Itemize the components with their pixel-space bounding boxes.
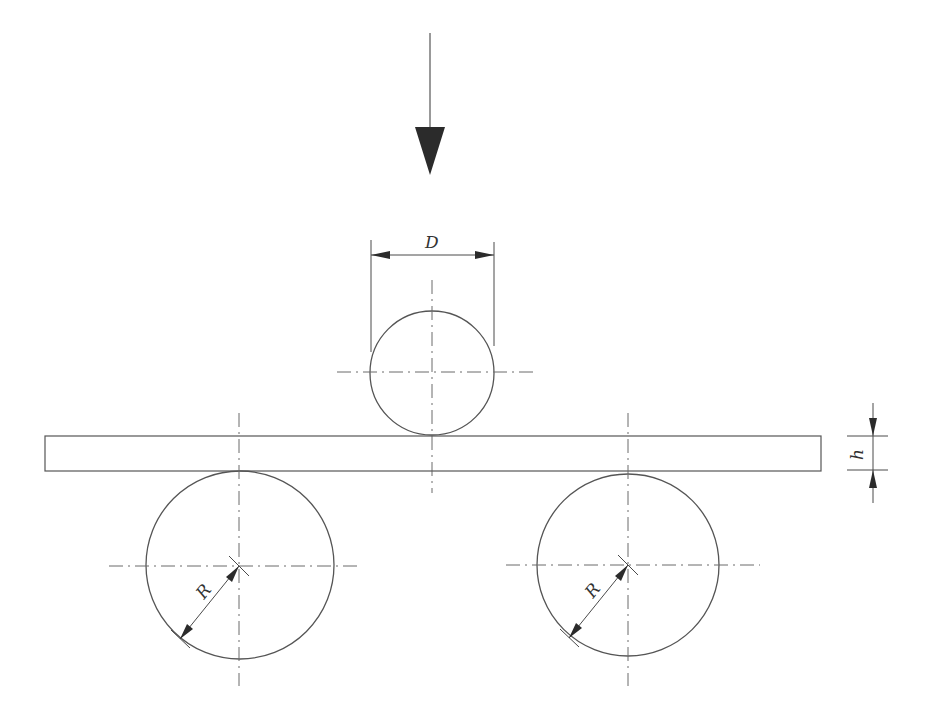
- d-arrow-right-icon: [475, 251, 494, 259]
- three-point-bending-diagram: D h R R: [0, 0, 928, 712]
- d-label: D: [424, 232, 439, 252]
- thickness-dimension: h: [847, 403, 888, 503]
- left-support: R: [109, 413, 362, 686]
- d-arrow-left-icon: [371, 251, 390, 259]
- h-arrow-top-icon: [869, 418, 877, 436]
- right-radius-arrow-edge-icon: [569, 623, 582, 638]
- h-label: h: [847, 449, 867, 460]
- load-arrow: [415, 33, 445, 175]
- h-arrow-bottom-icon: [869, 470, 877, 488]
- left-support-circle: [146, 471, 334, 659]
- right-support: R: [506, 413, 760, 686]
- load-arrow-head-icon: [415, 127, 445, 175]
- loading-roller: [337, 280, 538, 493]
- specimen-beam: [45, 436, 821, 471]
- left-radius-arrow-edge-icon: [180, 624, 193, 639]
